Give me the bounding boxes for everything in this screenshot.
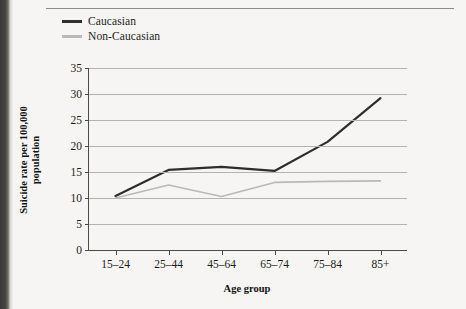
y-axis-tick-mark [85,146,89,147]
y-axis-title: Suicide rate per 100,000 population [18,100,42,220]
y-axis-tick-mark [85,250,89,251]
gridline [89,120,407,121]
y-axis-tick-mark [85,172,89,173]
gridline [89,172,407,173]
x-axis-tick-mark [169,250,170,255]
gridline [89,146,407,147]
y-axis-tick-label: 30 [71,88,83,100]
x-axis-tick-label: 65–74 [260,258,289,270]
series-line-non-caucasian [116,181,381,198]
gridline [89,68,407,69]
y-axis-tick-label: 35 [71,62,83,74]
gridline [89,224,407,225]
plot-area: 0510152025303515–2425–4445–6465–7475–848… [88,68,407,251]
y-axis-tick-label: 10 [71,192,83,204]
y-axis-tick-mark [85,224,89,225]
x-axis-tick-label: 45–64 [207,258,236,270]
line-chart: 0510152025303515–2425–4445–6465–7475–848… [0,0,466,309]
x-axis-tick-mark [116,250,117,255]
x-axis-tick-label: 15–24 [101,258,130,270]
y-axis-tick-label: 25 [71,114,83,126]
y-axis-tick-label: 20 [71,140,83,152]
gridline [89,198,407,199]
x-axis-tick-label: 25–44 [154,258,183,270]
y-axis-tick-mark [85,198,89,199]
x-axis-tick-mark [381,250,382,255]
x-axis-tick-label: 75–84 [313,258,342,270]
y-axis-tick-mark [85,94,89,95]
x-axis-tick-label: 85+ [372,258,390,270]
x-axis-title: Age group [88,283,406,294]
x-axis-tick-mark [222,250,223,255]
series-layer [89,68,407,250]
y-axis-tick-mark [85,68,89,69]
y-axis-tick-label: 15 [71,166,83,178]
y-axis-tick-label: 0 [76,244,82,256]
y-axis-title-line1: Suicide rate per 100,000 [18,106,29,214]
y-axis-tick-mark [85,120,89,121]
gridline [89,94,407,95]
x-axis-tick-mark [328,250,329,255]
x-axis-tick-mark [275,250,276,255]
y-axis-title-line2: population [30,136,41,184]
scanned-page: Caucasian Non-Caucasian 0510152025303515… [0,0,466,309]
y-axis-tick-label: 5 [76,218,82,230]
